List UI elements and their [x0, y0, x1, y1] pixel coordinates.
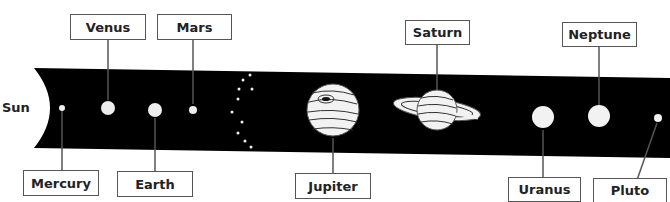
- uranus-icon: [532, 106, 554, 128]
- label-jupiter: Jupiter: [295, 173, 371, 199]
- label-saturn: Saturn: [405, 20, 470, 45]
- label-earth: Earth: [117, 171, 193, 197]
- earth-icon: [148, 103, 162, 117]
- sun-label: Sun: [2, 100, 30, 115]
- label-pluto: Pluto: [593, 178, 667, 202]
- neptune-icon: [588, 105, 610, 127]
- mars-icon: [189, 106, 197, 114]
- venus-icon: [101, 101, 115, 115]
- label-neptune: Neptune: [562, 22, 637, 47]
- label-mercury: Mercury: [23, 170, 99, 196]
- label-uranus: Uranus: [508, 177, 581, 202]
- mercury-icon: [59, 105, 65, 111]
- label-mars: Mars: [157, 14, 232, 40]
- jupiter-icon: [307, 84, 359, 136]
- pluto-icon: [654, 114, 662, 122]
- label-venus: Venus: [70, 14, 146, 40]
